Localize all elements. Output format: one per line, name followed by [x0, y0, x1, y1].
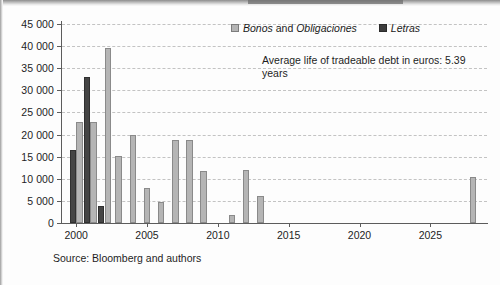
- bar-letras-2000: [70, 150, 77, 223]
- gridline: [62, 135, 487, 136]
- x-tick: [430, 223, 431, 227]
- y-tick: [57, 179, 62, 180]
- bar-bonos-2013: [257, 196, 264, 223]
- bar-bonos-2003: [115, 156, 122, 223]
- y-tick-label: 10 000: [21, 173, 54, 185]
- x-tick-label: 2015: [277, 229, 300, 241]
- x-tick: [289, 223, 290, 227]
- bar-bonos-2028: [470, 177, 477, 223]
- y-tick: [57, 68, 62, 69]
- gridline: [62, 90, 487, 91]
- y-tick: [57, 223, 62, 224]
- y-tick: [57, 135, 62, 136]
- y-tick-label: 20 000: [21, 129, 54, 141]
- chart-figure: 05 00010 00015 00020 00025 00030 00035 0…: [0, 0, 500, 285]
- x-tick-label: 2025: [419, 229, 442, 241]
- y-tick: [57, 90, 62, 91]
- y-tick-label: 40 000: [21, 40, 54, 52]
- x-tick: [76, 223, 77, 227]
- gridline: [62, 112, 487, 113]
- legend-label-bonos: Bonos and Obligaciones: [243, 22, 357, 34]
- gridline: [62, 46, 487, 47]
- y-tick: [57, 112, 62, 113]
- bar-bonos-2012: [243, 170, 250, 223]
- x-axis-line: [61, 223, 488, 224]
- y-tick: [57, 46, 62, 47]
- y-tick-label: 45 000: [21, 18, 54, 30]
- x-tick: [360, 223, 361, 227]
- y-tick-label: 5 000: [27, 195, 54, 207]
- gridline: [62, 157, 487, 158]
- x-tick-label: 2005: [135, 229, 158, 241]
- bar-bonos-2006: [158, 202, 165, 223]
- y-axis-line: [61, 21, 62, 223]
- y-tick: [57, 201, 62, 202]
- x-tick: [147, 223, 148, 227]
- bar-letras-2001: [84, 77, 91, 223]
- x-tick: [218, 223, 219, 227]
- bar-bonos-2001: [90, 122, 97, 223]
- y-tick-label: 35 000: [21, 62, 54, 74]
- bar-bonos-2000: [76, 122, 83, 223]
- page-top-edge: [0, 0, 500, 6]
- bar-bonos-2011: [229, 215, 236, 223]
- x-tick-label: 2010: [206, 229, 229, 241]
- y-tick-label: 15 000: [21, 151, 54, 163]
- x-tick-label: 2020: [348, 229, 371, 241]
- bar-bonos-2009: [200, 171, 207, 223]
- bar-bonos-2004: [130, 135, 137, 223]
- bar-letras-2002: [98, 206, 105, 223]
- legend-swatch-letras-icon: [379, 24, 387, 32]
- y-tick-label: 0: [48, 217, 54, 229]
- page-left-edge: [0, 0, 3, 285]
- gridline: [62, 179, 487, 180]
- legend-swatch-bonos-icon: [231, 24, 239, 32]
- average-life-annotation: Average life of tradeable debt in euros:…: [262, 54, 488, 80]
- gridline: [62, 201, 487, 202]
- bar-bonos-2008: [186, 140, 193, 223]
- x-tick-label: 2000: [64, 229, 87, 241]
- y-tick-label: 30 000: [21, 84, 54, 96]
- bar-bonos-2007: [172, 140, 179, 223]
- legend-item-letras[interactable]: Letras: [379, 22, 420, 34]
- legend-label-letras: Letras: [391, 22, 420, 34]
- source-note: Source: Bloomberg and authors: [53, 252, 201, 264]
- scan-artifact: [248, 0, 403, 4]
- bar-bonos-2005: [144, 188, 151, 223]
- bar-bonos-2002: [105, 48, 112, 223]
- y-tick-label: 25 000: [21, 106, 54, 118]
- legend-item-bonos[interactable]: Bonos and Obligaciones: [231, 22, 357, 34]
- y-tick: [57, 157, 62, 158]
- y-tick: [57, 24, 62, 25]
- chart-legend: Bonos and Obligaciones Letras: [231, 22, 420, 34]
